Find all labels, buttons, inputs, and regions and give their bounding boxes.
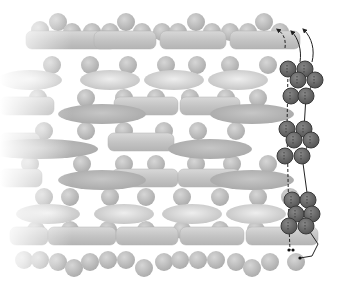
lattice-sphere [155,253,173,271]
lattice-sphere [189,251,207,269]
diagram-canvas [0,0,340,286]
arrow-icon [304,30,313,62]
lattice-sphere [189,122,207,140]
chain-sphere [281,218,297,234]
lattice-rod [160,31,226,49]
lattice-sphere [171,251,189,269]
lattice-sphere [173,188,191,206]
lattice-sphere [187,13,205,31]
lattice-sphere [255,13,273,31]
lattice-ellipsoid [144,70,204,90]
lattice-ellipsoid [168,139,252,159]
chain-sphere [290,72,306,88]
terminal-dot [287,248,290,251]
lattice-sphere [211,188,229,206]
chain-sphere [303,132,319,148]
chain-sphere [307,72,323,88]
lattice-ellipsoid [208,70,268,90]
chain-sphere [298,88,314,104]
lattice-sphere [259,56,277,74]
lattice-sphere [243,259,261,277]
lattice-sphere [227,122,245,140]
chain-sphere-layer [277,61,323,234]
terminal-dot [291,248,294,251]
lattice-sphere [261,253,279,271]
chain-sphere [283,88,299,104]
lattice-rod [180,227,244,245]
left-fade-overlay [0,0,120,286]
chain-sphere [277,148,293,164]
lattice-ellipsoid [210,170,294,190]
lattice-diagram [0,0,340,286]
lattice-sphere [287,253,305,271]
lattice-ellipsoid [162,204,222,224]
lattice-sphere [207,251,225,269]
lattice-sphere [249,188,267,206]
chain-sphere [284,192,300,208]
chain-sphere [294,148,310,164]
chain-sphere [298,218,314,234]
lattice-ellipsoid [210,104,294,124]
lattice-ellipsoid [226,204,286,224]
lattice-rod [116,227,178,245]
lattice-sphere [188,56,206,74]
lattice-sphere [135,259,153,277]
lattice-sphere [227,253,245,271]
chain-sphere [286,132,302,148]
chain-sphere [300,192,316,208]
lattice-rod [230,31,300,49]
lattice-sphere [137,188,155,206]
terminal-dot [298,256,301,259]
